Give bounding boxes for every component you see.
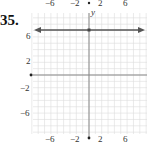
coordinate-plane: −6 −2 2 6 y 6 2 −2 −6 −6 −2 2 6 [0,0,147,147]
svg-text:−6: −6 [45,0,55,8]
svg-text:−2: −2 [70,0,80,8]
svg-text:−2: −2 [20,83,30,93]
svg-text:−6: −6 [20,108,30,118]
svg-text:2: 2 [98,134,103,144]
svg-text:6: 6 [123,0,128,8]
svg-text:6: 6 [26,31,31,41]
svg-text:2: 2 [26,56,31,66]
y-tick-labels: 6 2 −2 −6 [20,31,31,118]
bottom-x-tick-labels: −6 −2 2 6 [45,134,128,144]
svg-text:−6: −6 [45,134,55,144]
svg-text:6: 6 [123,134,128,144]
svg-text:2: 2 [98,0,103,8]
top-x-tick-labels: −6 −2 2 6 [45,0,128,8]
svg-text:−2: −2 [70,134,80,144]
y-axis-label: y [90,7,95,17]
